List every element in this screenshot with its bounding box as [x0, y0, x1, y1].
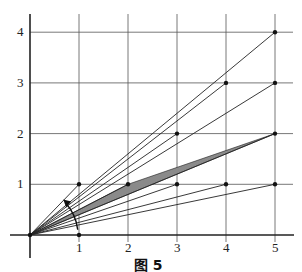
- lattice-point: [77, 182, 81, 186]
- origin-point: [28, 233, 32, 237]
- x-tick-label: 3: [174, 240, 181, 255]
- lattice-point: [224, 81, 228, 85]
- x-tick-label: 5: [272, 240, 279, 255]
- x-tick-label: 4: [223, 240, 230, 255]
- lattice-point: [126, 182, 130, 186]
- lattice-point: [175, 182, 179, 186]
- lattice-point: [273, 182, 277, 186]
- lattice-point: [273, 131, 277, 135]
- x-tick-label: 2: [125, 240, 132, 255]
- y-tick-label: 4: [17, 24, 24, 39]
- lattice-point: [77, 233, 81, 237]
- lattice-point: [273, 81, 277, 85]
- ray-line: [30, 184, 177, 235]
- y-tick-label: 1: [17, 176, 24, 191]
- lattice-point: [273, 30, 277, 34]
- x-tick-label: 1: [76, 240, 83, 255]
- lattice-diagram: 123451234图 5: [0, 0, 302, 272]
- lattice-point: [224, 182, 228, 186]
- lattice-point: [175, 131, 179, 135]
- y-tick-label: 2: [17, 126, 24, 141]
- y-tick-label: 3: [17, 75, 24, 90]
- ray-line: [30, 83, 275, 235]
- figure-caption: 图 5: [134, 257, 163, 272]
